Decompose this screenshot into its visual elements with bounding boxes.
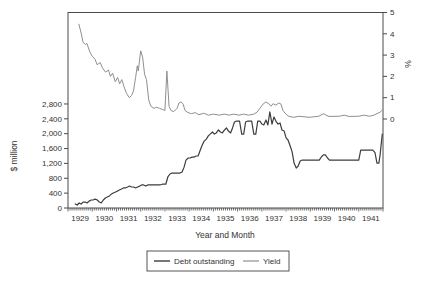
legend-label-yield: Yield bbox=[263, 257, 281, 266]
x-tick-label: 1931 bbox=[120, 214, 138, 223]
y-right-tick-label: 2 bbox=[390, 72, 395, 81]
chart-figure: 04008001,2001,6002,0002,4002,80001234519… bbox=[0, 0, 421, 285]
y-right-tick-label: 4 bbox=[390, 30, 395, 39]
x-tick-label: 1936 bbox=[241, 214, 259, 223]
y-left-axis-title: $ million bbox=[9, 140, 19, 171]
y-right-tick-label: 0 bbox=[390, 115, 395, 124]
x-tick-label: 1939 bbox=[314, 214, 332, 223]
x-tick-label: 1937 bbox=[265, 214, 283, 223]
x-tick-label: 1929 bbox=[71, 214, 89, 223]
chart-canvas: 04008001,2001,6002,0002,4002,80001234519… bbox=[0, 0, 421, 285]
x-axis-title: Year and Month bbox=[195, 230, 255, 240]
y-left-tick-label: 2,800 bbox=[42, 100, 63, 109]
y-left-tick-label: 800 bbox=[49, 174, 63, 183]
x-tick-label: 1933 bbox=[168, 214, 186, 223]
plot-frame bbox=[68, 13, 383, 209]
x-tick-label: 1932 bbox=[144, 214, 162, 223]
y-left-tick-label: 400 bbox=[49, 189, 63, 198]
y-left-tick-label: 1,600 bbox=[42, 144, 63, 153]
x-tick-label: 1941 bbox=[362, 214, 380, 223]
y-left-tick-label: 2,400 bbox=[42, 115, 63, 124]
y-left-tick-label: 2,000 bbox=[42, 129, 63, 138]
x-tick-label: 1934 bbox=[192, 214, 210, 223]
y-right-tick-label: 5 bbox=[390, 8, 395, 17]
x-tick-label: 1938 bbox=[289, 214, 307, 223]
y-left-tick-label: 1,200 bbox=[42, 159, 63, 168]
y-left-tick-label: 0 bbox=[58, 204, 63, 213]
x-tick-label: 1930 bbox=[95, 214, 113, 223]
y-right-axis-title: % bbox=[403, 60, 413, 68]
y-right-tick-label: 3 bbox=[390, 51, 395, 60]
x-tick-label: 1935 bbox=[217, 214, 235, 223]
debt-outstanding-line bbox=[75, 112, 382, 205]
legend-label-debt: Debt outstanding bbox=[174, 257, 235, 266]
legend: Debt outstanding Yield bbox=[147, 251, 289, 271]
x-tick-label: 1940 bbox=[338, 214, 356, 223]
y-right-tick-label: 1 bbox=[390, 93, 395, 102]
yield-line bbox=[79, 24, 382, 117]
